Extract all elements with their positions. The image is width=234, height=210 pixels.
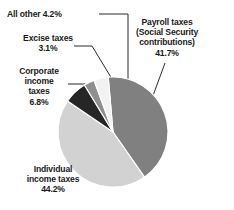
slice-label-corporate: Corporate income taxes 6.8% [2,66,76,107]
leader-line-all-other [99,14,128,86]
slice-label-payroll: Payroll taxes (Social Security contribut… [126,17,208,58]
slice-label-excise: Excise taxes 3.1% [8,33,88,53]
slice-label-individual: Individual income taxes 44.2% [6,164,100,195]
pie-chart-figure: All other 4.2% Excise taxes 3.1% Corpora… [0,0,234,210]
slice-label-all-other: All other 4.2% [7,9,99,19]
